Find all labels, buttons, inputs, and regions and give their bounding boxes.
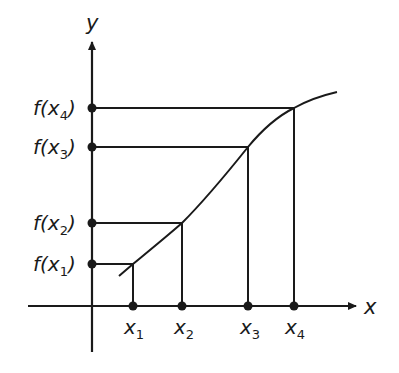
svg-text:f(x4): f(x4) [33,96,76,123]
y-axis-label: y [85,11,99,35]
x-axis-label: x [363,295,377,319]
function-curve [119,92,337,276]
function-plot: y x f(x4) f(x3) f(x2) f(x1) x1 x2 x3 x4 [0,0,399,373]
svg-text:f(x3): f(x3) [33,135,76,162]
svg-text:x1: x1 [123,315,144,342]
fx-label-4: f(x4) [33,96,76,123]
guide-lines [92,108,294,306]
x-label-4: x4 [284,315,305,342]
svg-text:x3: x3 [239,315,260,342]
fx-label-1: f(x1) [33,252,76,279]
x-label-3: x3 [239,315,260,342]
svg-text:f(x2): f(x2) [33,211,76,238]
fx-label-2: f(x2) [33,211,76,238]
svg-text:x4: x4 [284,315,305,342]
svg-text:f(x1): f(x1) [33,252,76,279]
x-label-2: x2 [173,315,194,342]
svg-text:x2: x2 [173,315,194,342]
fx-label-3: f(x3) [33,135,76,162]
x-label-1: x1 [123,315,144,342]
